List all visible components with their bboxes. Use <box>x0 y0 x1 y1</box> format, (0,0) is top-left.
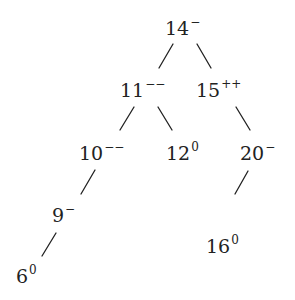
edge-11-to-12 <box>158 107 172 130</box>
node-value: 15 <box>196 79 220 101</box>
tree-node-20: 20− <box>240 140 275 164</box>
node-mark: 0 <box>231 233 239 247</box>
edge-10-to-9 <box>81 170 95 194</box>
node-value: 20 <box>240 142 264 164</box>
tree-node-15: 15++ <box>196 77 241 101</box>
node-value: 16 <box>206 235 230 257</box>
edge-14-to-15 <box>197 44 211 68</box>
tree-node-12: 120 <box>166 140 199 164</box>
node-mark: −− <box>145 77 165 91</box>
node-value: 11 <box>120 79 144 101</box>
tree-node-11: 11−− <box>120 77 165 101</box>
node-value: 9 <box>52 204 64 226</box>
edge-9-to-6 <box>42 233 56 256</box>
node-value: 12 <box>166 142 190 164</box>
tree-diagram: 14−11−−15++10−−12020−9−16060 <box>0 0 295 300</box>
node-mark: 0 <box>191 140 199 154</box>
edge-20-to-16 <box>235 171 248 194</box>
node-mark: −− <box>104 140 124 154</box>
tree-nodes: 14−11−−15++10−−12020−9−16060 <box>16 15 275 287</box>
node-mark: 0 <box>29 263 37 277</box>
tree-edges <box>42 44 250 256</box>
node-value: 14 <box>165 17 189 39</box>
node-value: 6 <box>16 265 28 287</box>
tree-node-16: 160 <box>206 233 239 257</box>
node-mark: − <box>190 15 200 29</box>
tree-node-6: 60 <box>16 263 37 287</box>
edge-15-to-20 <box>236 107 250 130</box>
node-mark: ++ <box>221 77 241 91</box>
node-value: 10 <box>79 142 103 164</box>
node-mark: − <box>265 140 275 154</box>
tree-node-14: 14− <box>165 15 200 39</box>
edge-11-to-10 <box>120 107 134 130</box>
tree-node-9: 9− <box>52 202 75 226</box>
node-mark: − <box>65 202 75 216</box>
edge-14-to-11 <box>159 44 173 68</box>
tree-node-10: 10−− <box>79 140 124 164</box>
